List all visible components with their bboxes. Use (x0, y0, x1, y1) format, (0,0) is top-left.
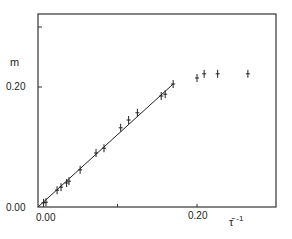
data-point-plus-marker (171, 80, 175, 88)
data-point-plus-marker (195, 74, 199, 82)
y-tick-label-020: 0.20 (6, 81, 25, 92)
axis-ticks (38, 27, 197, 207)
x-tick-label-000: 0.00 (36, 212, 55, 223)
fit-line-segment (38, 84, 173, 207)
data-point-plus-marker (44, 198, 48, 206)
data-point-plus-marker (55, 186, 59, 194)
data-point-plus-marker (246, 70, 250, 78)
y-axis-label: m (10, 56, 19, 68)
scatter-chart (0, 0, 292, 239)
x-axis-symbol: τ̄ (229, 216, 233, 228)
plot-frame (38, 14, 276, 207)
x-axis-label: τ̄-1 (229, 214, 243, 228)
x-tick-label-020: 0.20 (188, 210, 207, 221)
data-point-plus-marker (163, 90, 167, 98)
data-point-plus-marker (216, 70, 220, 78)
data-point-plus-marker (67, 177, 71, 185)
x-axis-exponent: -1 (236, 214, 243, 223)
data-points (42, 70, 250, 207)
y-tick-label-000: 0.00 (6, 202, 25, 213)
data-point-plus-marker (202, 70, 206, 78)
fit-line (38, 84, 173, 207)
